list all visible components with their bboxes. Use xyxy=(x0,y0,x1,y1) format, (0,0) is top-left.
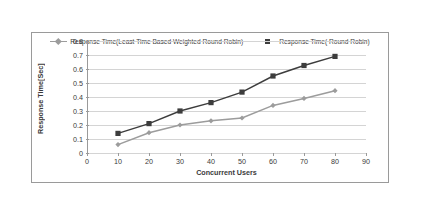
x-axis-title: Concurrent Users xyxy=(87,168,366,177)
x-axis-tick xyxy=(118,153,119,156)
data-point-marker xyxy=(146,130,151,135)
data-point-marker xyxy=(177,122,182,127)
x-axis-tick xyxy=(366,153,367,156)
x-axis-tick xyxy=(180,153,181,156)
x-axis-tick-label: 90 xyxy=(362,157,370,166)
x-axis-tick xyxy=(87,153,88,156)
x-axis-tick-label: 70 xyxy=(300,157,308,166)
x-axis-tick-label: 60 xyxy=(269,157,277,166)
x-axis-tick xyxy=(242,153,243,156)
y-axis-tick-label: 0.6 xyxy=(73,65,83,74)
legend-marker-diamond-icon xyxy=(50,38,67,45)
data-point-marker xyxy=(239,115,244,120)
x-axis-tick-label: 0 xyxy=(85,157,89,166)
data-point-marker xyxy=(208,118,213,123)
y-axis-tick-label: 0.7 xyxy=(73,51,83,60)
x-axis-tick xyxy=(149,153,150,156)
x-axis-tick-label: 10 xyxy=(114,157,122,166)
x-axis-tick xyxy=(273,153,274,156)
x-axis-tick-label: 40 xyxy=(207,157,215,166)
data-point-marker xyxy=(301,96,306,101)
data-point-marker xyxy=(332,54,337,59)
x-axis-tick xyxy=(335,153,336,156)
data-point-marker xyxy=(177,108,182,113)
y-axis-tick-label: 0 xyxy=(79,149,83,158)
y-axis-tick-label: 0.4 xyxy=(73,93,83,102)
y-axis-tick-label: 0.5 xyxy=(73,79,83,88)
x-axis-tick xyxy=(304,153,305,156)
x-axis-tick-label: 20 xyxy=(145,157,153,166)
plot-area: 00.10.20.30.40.50.60.70.8 01020304050607… xyxy=(87,41,366,153)
x-axis-tick xyxy=(211,153,212,156)
data-point-marker xyxy=(270,103,275,108)
y-axis-tick-label: 0.8 xyxy=(73,37,83,46)
series-lines xyxy=(87,41,366,153)
data-point-marker xyxy=(301,63,306,68)
y-axis-tick-label: 0.1 xyxy=(73,135,83,144)
data-point-marker xyxy=(115,131,120,136)
data-point-marker xyxy=(115,142,120,147)
gridline xyxy=(87,153,366,154)
y-axis-title: Response Time[Sec] xyxy=(36,43,45,155)
chart-container: Response Time(Least Time Based Weighted … xyxy=(31,32,389,183)
data-point-marker xyxy=(146,121,151,126)
data-point-marker xyxy=(332,88,337,93)
data-point-marker xyxy=(270,73,275,78)
x-axis-tick-label: 50 xyxy=(238,157,246,166)
data-point-marker xyxy=(208,100,213,105)
x-axis-tick-label: 80 xyxy=(331,157,339,166)
x-axis-tick-label: 30 xyxy=(176,157,184,166)
y-axis-tick-label: 0.3 xyxy=(73,107,83,116)
data-point-marker xyxy=(239,90,244,95)
y-axis-tick-label: 0.2 xyxy=(73,121,83,130)
